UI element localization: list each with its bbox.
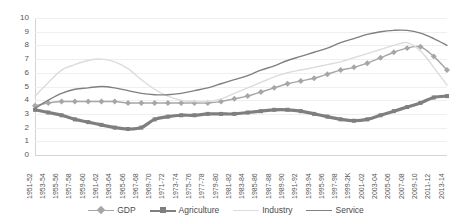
x-axis-tick-label: 1991-92 [291,173,298,199]
data-point-marker [392,109,396,113]
data-point-marker [418,101,422,105]
legend-swatch-icon [306,206,332,215]
data-point-marker [138,100,144,106]
y-axis-tick-label: 0 [0,151,29,159]
x-axis-tick-label: 2011-12 [424,174,431,199]
data-point-marker [46,111,50,115]
x-axis-tick-label: 1987-88 [265,173,272,199]
data-point-marker [231,96,237,102]
x-axis-tick-label: 1969-70 [145,173,152,199]
data-point-marker [113,126,117,130]
data-point-marker [299,109,303,113]
x-axis-tick-label: 1999-2K [344,173,351,199]
data-point-marker [60,113,64,117]
x-axis-tick-label: 2009-10 [411,173,418,199]
data-point-marker [324,71,330,77]
plot-area [35,18,447,155]
x-axis-tick-label: 1961-62 [92,173,99,199]
legend-swatch-icon [233,206,259,215]
data-point-marker [112,99,118,105]
data-point-marker [351,64,357,70]
y-axis-tick-label: 10 [0,14,29,22]
data-point-marker [166,115,170,119]
data-point-marker [125,100,131,106]
x-axis-tick-label: 1955-56 [52,173,59,199]
data-point-marker [98,99,104,105]
data-point-marker [99,123,103,127]
data-point-marker [59,99,65,105]
series-layer [35,18,447,155]
legend-item-gdp[interactable]: GDP [88,206,135,215]
series-line [35,46,447,105]
y-axis-tick-label: 7 [0,55,29,63]
chart-legend: GDPAgricultureIndustryService [0,200,452,220]
data-point-marker [312,112,316,116]
legend-label: Agriculture [179,206,220,215]
data-point-marker [219,112,223,116]
data-point-marker [245,93,251,99]
legend-item-service[interactable]: Service [306,206,363,215]
data-point-marker [272,108,276,112]
x-axis-tick-label: 2005-06 [384,173,391,199]
x-axis-tick-label: 1975-76 [185,173,192,199]
x-axis-tick-label: 1965-66 [119,173,126,199]
data-point-marker [311,75,317,81]
y-axis-tick-label: 5 [0,83,29,91]
data-point-marker [246,111,250,115]
data-point-marker [404,45,410,51]
y-axis-tick-label: 1 [0,137,29,145]
series-gdp [32,44,450,109]
x-axis-tick-label: 1951-52 [26,173,33,199]
x-axis-tick-label: 1973-74 [172,173,179,199]
data-point-marker [325,115,329,119]
data-point-marker [364,60,370,66]
data-point-marker [206,112,210,116]
y-axis-tick-label: 3 [0,110,29,118]
data-point-marker [405,105,409,109]
data-point-marker [232,112,236,116]
data-point-marker [445,94,449,98]
x-axis-tick-label: 1967-68 [132,173,139,199]
data-point-marker [286,108,290,112]
data-point-marker [339,117,343,121]
data-point-marker [126,127,130,131]
x-axis-tick-label: 1963-64 [105,173,112,199]
x-axis-tick-label: 2003-04 [371,173,378,199]
data-point-marker [179,113,183,117]
x-axis-tick-label: 2007-08 [398,173,405,199]
data-point-marker [391,49,397,55]
x-axis-tick-label: 2013-14 [438,173,445,199]
x-axis-tick-label: 1977-78 [198,173,205,199]
legend-label: Industry [262,206,292,215]
data-point-marker [298,78,304,84]
x-axis-tick-label: 1957-58 [65,173,72,199]
line-chart: 012345678910 1951-521953-541955-561957-5… [0,0,452,222]
legend-label: GDP [117,206,135,215]
x-axis-tick-label: 1985-86 [251,173,258,199]
series-line [35,30,447,108]
legend-item-agriculture[interactable]: Agriculture [150,206,220,215]
x-axis-ticks: 1951-521953-541955-561957-581959-601961-… [35,157,447,199]
x-axis-tick-label: 1997-98 [331,173,338,199]
series-agriculture [33,94,449,131]
data-point-marker [338,67,344,73]
data-point-marker [259,109,263,113]
data-point-marker [432,95,436,99]
series-industry [35,42,447,101]
y-axis-tick-label: 4 [0,96,29,104]
legend-swatch-icon [88,206,114,215]
x-axis-tick-label: 1983-84 [238,173,245,199]
legend-item-industry[interactable]: Industry [233,206,292,215]
data-point-marker [192,113,196,117]
legend-label: Service [335,206,363,215]
y-axis-tick-label: 6 [0,69,29,77]
data-point-marker [165,100,171,106]
x-axis-tick-label: 1989-90 [278,173,285,199]
x-axis-line [35,155,447,156]
x-axis-tick-label: 1971-72 [158,173,165,199]
data-point-marker [73,117,77,121]
data-point-marker [72,99,78,105]
legend-swatch-icon [150,206,176,215]
data-point-marker [271,85,277,91]
x-axis-tick-label: 2001-02 [358,173,365,199]
